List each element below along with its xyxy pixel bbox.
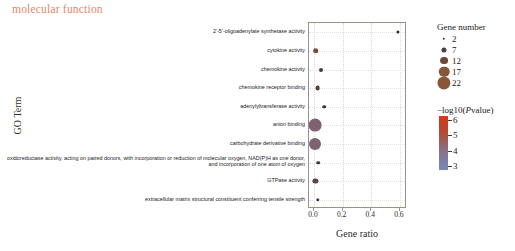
y-axis-tick-label: GTPase activity [5,177,305,184]
data-point [396,31,399,34]
y-axis-tick-label: chemokine activity [5,65,305,72]
colorbar-tick-label: 4 [453,146,458,156]
data-point [316,198,319,201]
size-legend-value: 17 [452,67,461,77]
y-axis-tick-label: carbohydrate derivative binding [5,140,305,147]
size-legend-dot [443,37,445,39]
chart-root: molecular function GO Term Gene ratio 2'… [0,0,515,251]
x-axis-tick-label: 0.0 [308,210,317,219]
gridline-horizontal [309,200,405,201]
gridline-horizontal [309,163,405,164]
gridline-horizontal [309,144,405,145]
x-axis-tick-label: 0.4 [366,210,375,219]
data-point [319,68,323,72]
colorbar-wrap: 6543 [437,116,511,170]
size-legend-item: 22 [437,77,511,88]
size-legend-items: 27121722 [437,33,511,88]
size-legend-value: 2 [452,34,457,44]
size-legend: Gene number 27121722 [437,22,511,88]
color-legend: −log10(Pvalue) 6543 [437,105,511,170]
colorbar-tick-label: 3 [453,161,458,171]
size-legend-item: 2 [437,33,511,44]
data-point [309,119,322,132]
size-legend-dot [437,76,450,89]
color-legend-title-text: −log10(Pvalue) [437,105,494,115]
size-legend-value: 7 [452,45,457,55]
size-legend-item: 17 [437,66,511,77]
size-legend-dot [441,47,446,52]
gridline-horizontal [309,51,405,52]
colorbar-tick-mark [448,120,452,121]
data-point [313,179,318,184]
gridline-horizontal [309,125,405,126]
data-point [313,48,319,54]
data-point [322,105,326,109]
size-legend-item: 7 [437,44,511,55]
colorbar-tick-mark [448,135,452,136]
gridline-horizontal [309,181,405,182]
plot-panel [308,22,406,208]
size-legend-title: Gene number [437,22,511,32]
colorbar-tick-label: 6 [453,115,458,125]
colorbar-tick-label: 5 [453,130,458,140]
data-point [317,161,321,165]
x-axis-tick-label: 0.2 [337,210,346,219]
size-legend-value: 12 [452,56,461,66]
gridline-horizontal [309,32,405,33]
x-axis-title: Gene ratio [308,228,406,239]
colorbar [439,116,448,170]
data-point [309,138,321,150]
y-axis-tick-label: adenylyltransferase activity [5,102,305,109]
y-axis-title: GO Term [12,86,23,146]
size-legend-value: 22 [452,78,461,88]
colorbar-tick-mark [448,151,452,152]
y-axis-tick-label: cytokine activity [5,47,305,54]
data-point [315,86,320,91]
y-axis-tick-label: chemokine receptor binding [5,84,305,91]
color-legend-title: −log10(Pvalue) [437,105,511,115]
x-axis-tick-label: 0.6 [394,210,403,219]
size-legend-dot [440,57,448,65]
y-axis-tick-label: extracellular matrix structural constitu… [5,195,305,202]
page-title: molecular function [12,3,103,15]
colorbar-tick-mark [448,166,452,167]
size-legend-item: 12 [437,55,511,66]
gridline-horizontal [309,88,405,89]
gridline-horizontal [309,70,405,71]
y-axis-tick-label: 2'-5'-oligoadenylate synthetase activity [5,28,305,35]
y-axis-tick-label: anion binding [5,121,305,128]
y-axis-tick-label: oxidoreductase activity, acting on paire… [5,155,305,168]
